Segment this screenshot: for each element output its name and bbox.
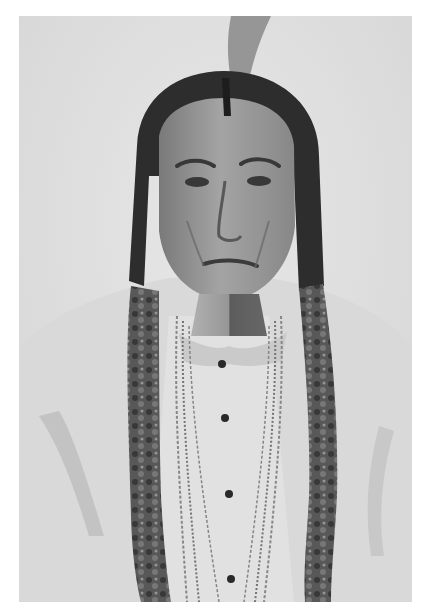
portrait-photo bbox=[19, 16, 412, 602]
page bbox=[0, 0, 422, 608]
portrait-illustration bbox=[19, 16, 412, 602]
